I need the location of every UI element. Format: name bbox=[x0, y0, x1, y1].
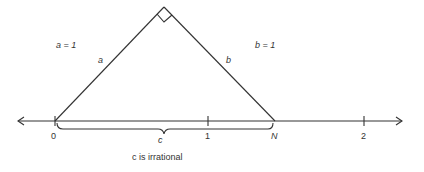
side-b-line bbox=[164, 7, 275, 121]
diagram-canvas: a = 1 a b b = 1 0 c 1 N 2 c is irrationa… bbox=[0, 0, 424, 172]
label-b-eq: b = 1 bbox=[255, 40, 275, 50]
label-c: c bbox=[158, 135, 163, 145]
label-side-b: b bbox=[226, 55, 231, 65]
brace-c bbox=[57, 123, 273, 134]
label-point-N: N bbox=[271, 131, 278, 141]
side-a-line bbox=[55, 7, 164, 121]
label-side-a: a bbox=[98, 55, 103, 65]
label-tick-0: 0 bbox=[51, 131, 56, 141]
label-tick-1: 1 bbox=[205, 131, 210, 141]
label-tick-2: 2 bbox=[361, 131, 366, 141]
right-angle-marker bbox=[157, 14, 172, 22]
label-a-eq: a = 1 bbox=[56, 40, 76, 50]
caption: c is irrational bbox=[132, 152, 183, 162]
